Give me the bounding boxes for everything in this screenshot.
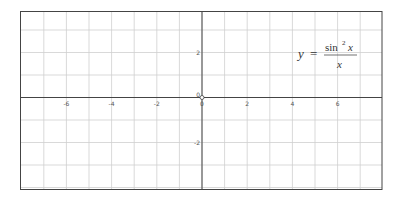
equation-num-var: x (347, 41, 353, 53)
x-tick-label: 6 (336, 100, 340, 107)
equation-denominator: x (336, 58, 342, 70)
equation-num-base: sin (325, 41, 338, 53)
x-tick-label: -2 (154, 100, 160, 107)
equation-equals: = (310, 46, 317, 61)
equation-num-exp: 2 (342, 39, 346, 47)
x-tick-label: 2 (245, 100, 249, 107)
x-tick-label: 0 (200, 100, 204, 107)
x-tick-labels: -6-4-20246 (63, 100, 339, 107)
y-tick-label: 0 (196, 91, 200, 98)
x-tick-label: 4 (290, 100, 294, 107)
equation-lhs: y (296, 46, 304, 61)
x-tick-label: -4 (109, 100, 115, 107)
equation-label: y = sin 2 x x (296, 39, 357, 70)
y-tick-label: -2 (194, 139, 200, 146)
y-tick-label: 2 (196, 49, 200, 56)
x-tick-label: -6 (63, 100, 69, 107)
origin-marker (200, 96, 204, 100)
function-plot: -6-4-20246 2-20 y = sin 2 x x (0, 0, 403, 201)
